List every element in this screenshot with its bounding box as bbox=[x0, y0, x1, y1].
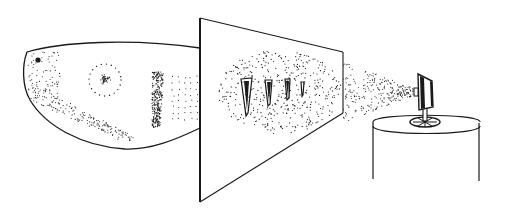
screen-panel bbox=[200, 18, 343, 202]
eye-dot bbox=[35, 57, 40, 62]
illustration-canvas bbox=[0, 0, 505, 213]
pedestal-cylinder bbox=[373, 115, 480, 181]
fish-shape bbox=[24, 42, 200, 149]
light-beam bbox=[343, 63, 416, 121]
stipple-shading bbox=[28, 51, 199, 141]
circular-spot bbox=[88, 63, 121, 96]
illustration bbox=[0, 0, 505, 213]
projector-lamp bbox=[410, 74, 440, 127]
